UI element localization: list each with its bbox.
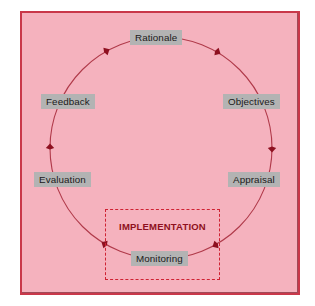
arrowhead-left [46, 143, 54, 149]
implementation-label: IMPLEMENTATION [106, 221, 219, 232]
arrowhead-upper-right [213, 47, 223, 57]
node-appraisal[interactable]: Appraisal [228, 172, 280, 187]
arrowhead-right [268, 146, 276, 152]
node-rationale[interactable]: Rationale [130, 30, 182, 45]
implementation-group-box: IMPLEMENTATION [105, 209, 220, 280]
node-evaluation[interactable]: Evaluation [34, 172, 91, 187]
diagram-canvas: IMPLEMENTATION Rationale Objectives Appr… [0, 0, 315, 306]
node-objectives[interactable]: Objectives [223, 94, 280, 109]
arrowhead-upper-left [102, 46, 112, 56]
node-monitoring[interactable]: Monitoring [131, 251, 188, 266]
node-feedback[interactable]: Feedback [41, 94, 95, 109]
